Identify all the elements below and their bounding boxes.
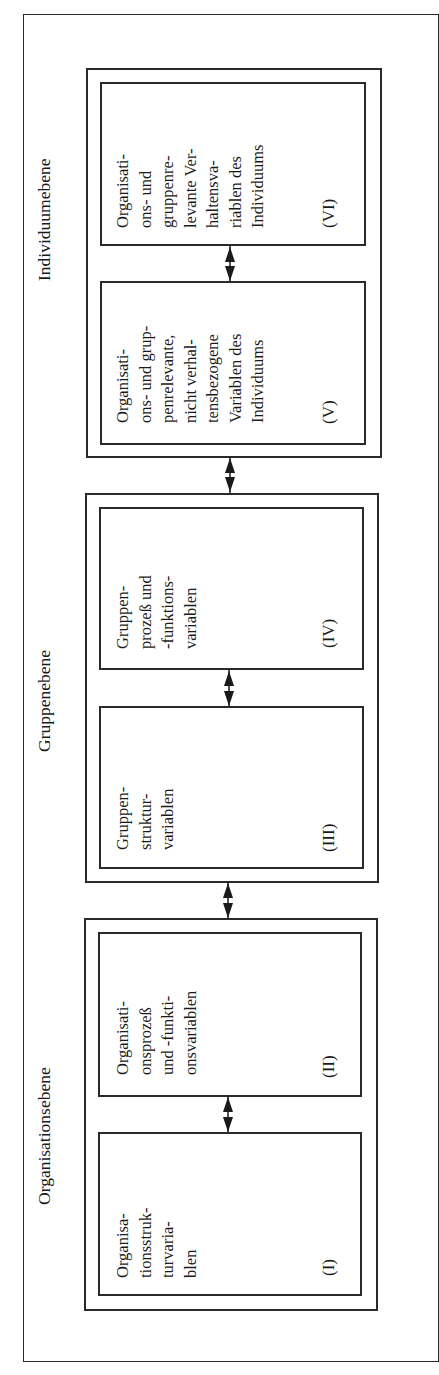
- bidirectional-arrow-i-ii: [221, 1096, 235, 1133]
- variable-box-iii-text: Gruppen- struktur- variablen: [112, 765, 180, 850]
- variable-box-v-text: Organisati- ons- und grup- penrelevante,…: [112, 301, 270, 423]
- variable-box-ii-text: Organisati- onsprozeß und -funkti- onsva…: [112, 963, 202, 1075]
- variable-box-vi-numeral: (VI): [320, 192, 337, 228]
- variable-box-iv-text: Gruppen- prozeß und -funktions- variable…: [112, 524, 202, 649]
- level-label-individuum: Individuumebene: [36, 96, 54, 281]
- bidirectional-arrow-gruppe-organisation: [221, 882, 235, 919]
- variable-box-i-text: Organisa- tionsstruk- turvaria- blen: [112, 1200, 202, 1278]
- variable-box-i-numeral: (I): [320, 1250, 337, 1276]
- variable-box-v-numeral: (V): [320, 394, 337, 424]
- variable-box-iv-numeral: (IV): [320, 610, 337, 648]
- variable-box-vi-text: Organisati- ons- und gruppenre- levante …: [112, 110, 270, 228]
- bidirectional-arrow-v-vi: [223, 246, 237, 282]
- variable-box-iii-numeral: (III): [320, 808, 337, 852]
- bidirectional-arrow-iii-iv: [222, 670, 236, 707]
- level-label-gruppe: Gruppenebene: [36, 617, 54, 752]
- level-label-organisation: Organisationsebene: [36, 1030, 54, 1205]
- variable-box-ii-numeral: (II): [320, 1046, 337, 1078]
- bidirectional-arrow-individuum-gruppe: [223, 457, 237, 493]
